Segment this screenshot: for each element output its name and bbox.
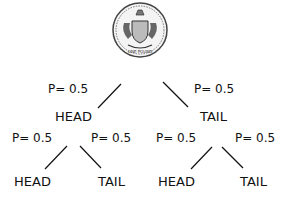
prob-label-l1-tail: P= 0.5 [194,82,234,96]
node-l1-head: HEAD [55,110,92,124]
node-l2-head-1: HEAD [14,175,51,189]
tree-branches [0,0,281,197]
prob-label-l2-th: P= 0.5 [156,131,196,145]
prob-label-l1-head: P= 0.5 [48,82,88,96]
node-l2-head-2: HEAD [158,175,195,189]
node-l2-tail-1: TAIL [98,175,125,189]
prob-label-l2-tt: P= 0.5 [235,131,275,145]
prob-label-l2-ht: P= 0.5 [91,131,131,145]
node-l1-tail: TAIL [200,110,227,124]
prob-label-l2-hh: P= 0.5 [12,131,52,145]
node-l2-tail-2: TAIL [240,175,267,189]
